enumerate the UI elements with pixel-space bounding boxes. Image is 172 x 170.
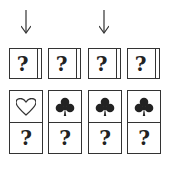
card-edge [116,49,117,78]
bottom-card-4[interactable]: ? [127,90,161,154]
question-mark: ? [10,122,42,153]
question-mark: ? [10,51,35,77]
question-mark: ? [128,51,153,77]
bottom-card-2[interactable]: ? [48,90,82,154]
question-mark: ? [49,51,74,77]
club-icon [134,97,154,117]
bottom-card-1[interactable]: ? [9,90,43,154]
question-mark: ? [89,122,121,153]
card-edge [37,49,38,78]
top-card-1[interactable]: ? [9,48,42,79]
card-edge [155,49,156,78]
card-edge [76,49,77,78]
heart-icon [16,98,36,116]
top-card-3[interactable]: ? [88,48,121,79]
bottom-card-3[interactable]: ? [88,90,122,154]
top-card-4[interactable]: ? [127,48,160,79]
question-mark: ? [89,51,114,77]
club-icon [95,97,115,117]
question-mark: ? [49,122,81,153]
down-arrow-icon [21,10,31,34]
top-card-2[interactable]: ? [48,48,81,79]
down-arrow-icon [99,10,109,34]
question-mark: ? [128,122,160,153]
club-icon [55,97,75,117]
